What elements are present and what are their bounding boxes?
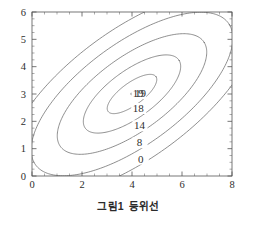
contour-figure: 02468 0123456 1918148019 그림1등위선 [0,0,257,230]
x-axis-label-8: 8 [229,179,234,190]
figure-caption-number: 그림1 [97,200,123,212]
x-axis-label-0: 0 [29,179,34,190]
contour-label-8: 8 [137,136,143,148]
contour-label-14: 14 [134,119,146,131]
y-axis-label-0: 0 [21,171,26,182]
peak-value-label: 19 [135,87,147,99]
y-axis-label-5: 5 [21,34,26,45]
y-axis-tick-labels: 0123456 [21,7,27,182]
x-axis-tick-labels: 02468 [29,179,234,190]
x-axis-label-2: 2 [79,179,84,190]
y-axis-label-6: 6 [21,7,26,18]
y-axis-label-2: 2 [21,116,26,127]
contour-plot-svg: 02468 0123456 1918148019 [0,0,257,196]
y-axis-label-1: 1 [21,143,26,154]
y-axis-label-3: 3 [21,89,26,100]
x-axis-label-4: 4 [129,179,135,190]
figure-caption: 그림1등위선 [0,198,257,213]
x-axis-label-6: 6 [179,179,184,190]
figure-caption-text: 등위선 [129,200,160,212]
y-axis-label-4: 4 [21,61,27,72]
contour-plot-area: 02468 0123456 1918148019 [0,0,257,196]
contour-label-0: 0 [138,153,144,165]
contour-label-18: 18 [133,102,145,114]
